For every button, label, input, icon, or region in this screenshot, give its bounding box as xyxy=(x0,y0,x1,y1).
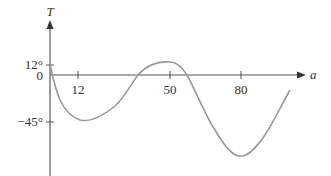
y-tick-label: 0 xyxy=(37,68,44,83)
x-tick-label: 50 xyxy=(164,82,177,97)
line-chart: T a 12 50 80 12° 0 −45° xyxy=(0,0,331,176)
y-tick-label: −45° xyxy=(17,114,43,129)
x-axis-arrow-icon xyxy=(297,72,306,79)
y-axis-label: T xyxy=(46,4,54,19)
x-axis-label: a xyxy=(310,67,317,82)
x-tick-label: 12 xyxy=(72,82,85,97)
x-tick-label: 80 xyxy=(235,82,248,97)
y-axis-arrow-icon xyxy=(47,20,54,29)
y-ticks: 12° 0 −45° xyxy=(17,57,54,129)
